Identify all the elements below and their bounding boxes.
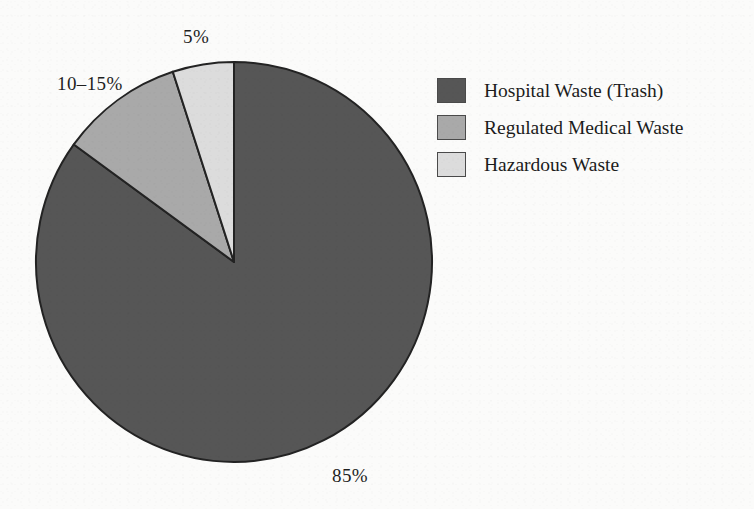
pie-label-regulated-medical-waste: 10–15% — [57, 74, 123, 93]
chart-legend: Hospital Waste (Trash) Regulated Medical… — [437, 72, 747, 183]
pie-chart-figure: 5% 10–15% 85% Hospital Waste (Trash) Reg… — [0, 0, 754, 509]
legend-item-regulated-medical-waste[interactable]: Regulated Medical Waste — [437, 109, 747, 146]
pie-label-hospital-waste: 85% — [332, 466, 368, 485]
legend-item-hospital-waste[interactable]: Hospital Waste (Trash) — [437, 72, 747, 109]
pie-label-hazardous-waste: 5% — [183, 27, 209, 46]
legend-swatch-hazardous-waste — [437, 152, 466, 177]
legend-swatch-regulated-medical-waste — [437, 115, 466, 140]
legend-item-hazardous-waste[interactable]: Hazardous Waste — [437, 146, 747, 183]
legend-label-regulated-medical-waste: Regulated Medical Waste — [484, 118, 684, 138]
pie-chart-area: 5% 10–15% 85% — [0, 0, 460, 509]
legend-label-hazardous-waste: Hazardous Waste — [484, 155, 619, 175]
pie-slices — [36, 62, 432, 462]
legend-swatch-hospital-waste — [437, 78, 466, 103]
legend-label-hospital-waste: Hospital Waste (Trash) — [484, 81, 663, 101]
